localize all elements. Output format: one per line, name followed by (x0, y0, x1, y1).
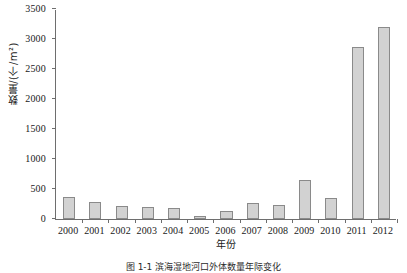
bar (63, 197, 75, 219)
y-axis-tick-label: 2500 (25, 64, 46, 74)
y-axis-tick: 2500 (52, 68, 56, 69)
x-axis-tick-label: 2002 (110, 226, 130, 236)
x-axis-tick-label: 2005 (189, 226, 209, 236)
bar (168, 208, 180, 219)
y-axis-tick-label: 1000 (25, 154, 46, 164)
x-axis-tick (108, 219, 109, 223)
y-axis-tick: 3500 (52, 8, 56, 9)
x-axis-tick-label: 2000 (58, 226, 78, 236)
x-axis-tick (135, 219, 136, 223)
x-axis-tick (82, 219, 83, 223)
x-axis-tick (213, 219, 214, 223)
y-axis-tick: 2000 (52, 98, 56, 99)
bar (89, 202, 101, 219)
x-axis-tick-labels: 2000200120022003200420052006200720082009… (55, 226, 396, 240)
bar (247, 203, 259, 219)
x-axis-tick (266, 219, 267, 223)
x-axis-tick (292, 219, 293, 223)
y-axis-title: 数量/(个/m²) (7, 42, 21, 105)
bar (142, 207, 154, 219)
y-axis-tick: 1000 (52, 158, 56, 159)
y-axis-tick-label: 3000 (25, 34, 46, 44)
x-axis-tick (161, 219, 162, 223)
bar (273, 205, 285, 219)
y-axis-tick-label: 1500 (25, 124, 46, 134)
x-axis-tick (397, 219, 398, 223)
bar (378, 27, 390, 219)
y-axis-tick: 500 (52, 188, 56, 189)
x-axis-title: 年份 (55, 240, 396, 250)
bar (352, 47, 364, 219)
y-axis-tick: 0 (52, 218, 56, 219)
x-axis-tick-label: 2003 (137, 226, 157, 236)
x-axis-tick (371, 219, 372, 223)
figure-bar-chart: 数量/(个/m²) 0500100015002000250030003500 2… (0, 0, 407, 273)
bar (220, 211, 232, 219)
y-axis-tick-label: 500 (30, 184, 46, 194)
y-axis-tick-label: 0 (41, 214, 46, 224)
bar (299, 180, 311, 219)
x-axis-tick-label: 2009 (294, 226, 314, 236)
y-axis-tick-label: 2000 (25, 94, 46, 104)
bar (325, 198, 337, 219)
x-axis-tick (345, 219, 346, 223)
x-axis-tick-label: 2010 (320, 226, 340, 236)
x-axis-tick (240, 219, 241, 223)
plot-area: 0500100015002000250030003500 (55, 10, 396, 220)
x-axis-tick-label: 2007 (242, 226, 262, 236)
x-axis-tick-label: 2012 (373, 226, 393, 236)
x-axis-tick-label: 2006 (215, 226, 235, 236)
figure-caption: 图 1-1 滨海湿地河口外体数量年际变化 (0, 261, 407, 273)
x-axis-tick-label: 2001 (84, 226, 104, 236)
bar (116, 206, 128, 219)
x-axis-tick (187, 219, 188, 223)
x-axis-tick-label: 2004 (163, 226, 183, 236)
x-axis-tick (318, 219, 319, 223)
x-axis-tick-label: 2008 (268, 226, 288, 236)
y-axis-tick: 3000 (52, 38, 56, 39)
y-axis-tick-label: 3500 (25, 4, 46, 14)
x-axis-tick-label: 2011 (347, 226, 367, 236)
y-axis-tick: 1500 (52, 128, 56, 129)
bar (194, 216, 206, 219)
